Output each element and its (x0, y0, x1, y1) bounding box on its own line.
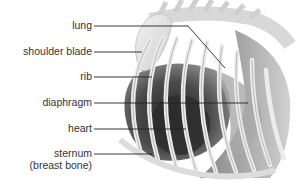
label-sternum-sub: (breast bone) (30, 160, 92, 171)
anatomy-diagram: lung shoulder blade rib diaphragm heart … (0, 0, 305, 182)
ribcage-illustration (0, 0, 305, 182)
label-rib: rib (80, 71, 92, 82)
label-diaphragm: diaphragm (42, 97, 92, 108)
label-lung: lung (72, 20, 92, 31)
label-shoulder-blade: shoulder blade (23, 46, 92, 57)
label-sternum: sternum (54, 148, 92, 159)
label-heart: heart (68, 123, 92, 134)
